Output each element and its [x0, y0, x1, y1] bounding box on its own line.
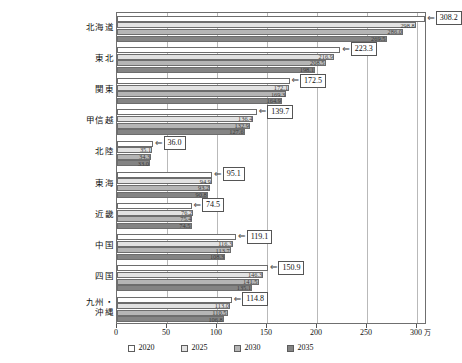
y-axis-label: 東海: [2, 179, 114, 189]
callout-arrow-icon: ⇐: [270, 263, 278, 272]
x-axis-tick-label: 100: [210, 329, 222, 337]
bar-value-label: 269.5: [371, 36, 386, 42]
y-axis-label: 甲信越: [2, 116, 114, 126]
legend-item-2030[interactable]: 2030: [234, 344, 261, 352]
callout-arrow-icon: ⇐: [194, 201, 202, 210]
bar-value-label: 90.8: [196, 192, 208, 198]
legend-label: 2035: [298, 344, 314, 352]
bar-value-label: 127.6: [229, 129, 244, 135]
callout-arrow-icon: ⇐: [155, 139, 163, 148]
legend-item-2035[interactable]: 2035: [287, 344, 314, 352]
callout-value-text: 119.1: [247, 230, 273, 244]
legend-label: 2025: [192, 344, 208, 352]
bar-value-label: 74.5: [179, 223, 191, 229]
y-axis-category-labels: 北海道東北関東甲信越北陸東海近畿中国四国九州・沖縄: [0, 12, 114, 324]
x-axis-tick-label: 150: [260, 329, 272, 337]
callout-value-text: 36.0: [164, 136, 186, 150]
legend-swatch-icon: [181, 345, 188, 352]
callout-arrow-icon: ⇐: [238, 232, 246, 241]
bar-2035: [117, 285, 252, 291]
callout-value-text: 139.7: [267, 105, 293, 119]
plot-area: 298.8286.0269.5216.9208.5198.1172.1169.3…: [116, 12, 426, 324]
bar-2030: [117, 60, 326, 66]
callout-value-text: 114.8: [242, 292, 268, 306]
x-axis-unit-label: 万: [424, 330, 431, 337]
bar-2035: [117, 67, 315, 73]
y-axis-label: 中国: [2, 241, 114, 251]
bar-2020: [117, 47, 340, 53]
bar-value-label: 108.3: [210, 254, 225, 260]
gridline: [367, 13, 368, 323]
callout-value-北海道: ⇐308.2: [427, 12, 462, 24]
callout-value-関東: ⇐172.5: [292, 75, 327, 87]
bar-value-label: 164.9: [267, 98, 282, 104]
legend-label: 2030: [245, 344, 261, 352]
bar-2025: [117, 22, 416, 28]
bar-value-label: 198.1: [300, 67, 315, 73]
legend-label: 2020: [139, 344, 155, 352]
legend: 2020202520302035: [0, 344, 441, 352]
bar-2025: [117, 54, 334, 60]
y-axis-label: 北陸: [2, 147, 114, 157]
legend-swatch-icon: [128, 345, 135, 352]
callout-value-東北: ⇐223.3: [342, 43, 377, 55]
bar-2025: [117, 116, 253, 122]
callout-value-text: 223.3: [351, 42, 377, 56]
bar-2025: [117, 272, 263, 278]
bar-2030: [117, 29, 403, 35]
callout-arrow-icon: ⇐: [292, 76, 300, 85]
callout-arrow-icon: ⇐: [259, 107, 267, 116]
bar-2035: [117, 192, 208, 198]
bar-value-label: 33.0: [138, 161, 150, 167]
y-axis-label: 北海道: [2, 23, 114, 33]
x-axis-tick-label: 250: [360, 329, 372, 337]
callout-value-中国: ⇐119.1: [238, 231, 272, 243]
callout-arrow-icon: ⇐: [214, 170, 222, 179]
callout-value-text: 172.5: [300, 74, 326, 88]
bar-2020: [117, 16, 425, 22]
legend-item-2020[interactable]: 2020: [128, 344, 155, 352]
legend-item-2025[interactable]: 2025: [181, 344, 208, 352]
x-axis-tick-label: 50: [162, 329, 170, 337]
bar-2035: [117, 129, 245, 135]
bar-2030: [117, 91, 286, 97]
bar-value-label: 286.0: [388, 29, 403, 35]
gridline: [417, 13, 418, 323]
bar-value-label: 135.1: [237, 285, 252, 291]
y-axis-label: 東北: [2, 54, 114, 64]
legend-swatch-icon: [287, 345, 294, 352]
callout-value-text: 95.1: [223, 167, 245, 181]
bar-2020: [117, 78, 290, 84]
callout-value-北陸: ⇐36.0: [155, 137, 186, 149]
bar-2025: [117, 85, 289, 91]
callout-value-text: 74.5: [202, 198, 224, 212]
x-axis-tick-label: 300: [410, 329, 422, 337]
y-axis-label: 関東: [2, 85, 114, 95]
callout-arrow-icon: ⇐: [342, 45, 350, 54]
x-axis: 050100150200250300: [116, 324, 426, 342]
bar-value-label: 106.8: [208, 317, 223, 323]
callout-value-text: 308.2: [436, 11, 462, 25]
bar-2020: [117, 109, 257, 115]
bar-2020: [117, 172, 212, 178]
callout-arrow-icon: ⇐: [234, 295, 242, 304]
callout-arrow-icon: ⇐: [427, 14, 435, 23]
x-axis-tick-label: 0: [114, 329, 118, 337]
bar-2035: [117, 36, 387, 42]
callout-value-近畿: ⇐74.5: [194, 199, 225, 211]
bar-2035: [117, 98, 282, 104]
callout-value-text: 150.9: [278, 261, 304, 275]
callout-value-九州・沖縄: ⇐114.8: [234, 293, 268, 305]
x-axis-tick-label: 200: [310, 329, 322, 337]
legend-swatch-icon: [234, 345, 241, 352]
y-axis-label: 九州・沖縄: [2, 298, 114, 317]
callout-value-東海: ⇐95.1: [214, 168, 245, 180]
bar-2020: [117, 265, 268, 271]
y-axis-label: 四国: [2, 272, 114, 282]
callout-value-四国: ⇐150.9: [270, 262, 305, 274]
y-axis-label: 近畿: [2, 210, 114, 220]
callout-value-甲信越: ⇐139.7: [259, 106, 294, 118]
